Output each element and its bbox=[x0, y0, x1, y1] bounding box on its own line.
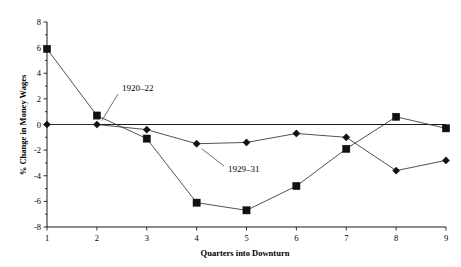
data-point-marker bbox=[343, 145, 350, 152]
x-axis: 123456789 bbox=[45, 227, 448, 243]
y-axis-title: % Change in Money Wages bbox=[18, 74, 28, 175]
data-point-marker bbox=[393, 167, 400, 174]
y-tick-label: -8 bbox=[34, 222, 41, 232]
data-point-marker bbox=[43, 121, 50, 128]
chart-container: 86420-2-4-6-8 123456789 1920–221929–31 %… bbox=[0, 0, 461, 267]
data-point-marker bbox=[93, 121, 100, 128]
data-point-marker bbox=[143, 126, 150, 133]
series-annotation-1929–31: 1929–31 bbox=[228, 164, 260, 174]
y-tick-label: 0 bbox=[37, 120, 41, 130]
wage-change-line-chart: 86420-2-4-6-8 123456789 1920–221929–31 %… bbox=[0, 0, 461, 267]
data-point-marker bbox=[442, 157, 449, 164]
y-tick-label: -4 bbox=[34, 171, 42, 181]
x-tick-label: 8 bbox=[394, 233, 398, 243]
x-tick-label: 5 bbox=[244, 233, 248, 243]
data-point-marker bbox=[143, 135, 150, 142]
y-tick-label: 4 bbox=[37, 68, 42, 78]
x-tick-label: 6 bbox=[294, 233, 298, 243]
data-point-marker bbox=[243, 139, 250, 146]
data-point-marker bbox=[442, 125, 449, 132]
data-point-marker bbox=[43, 45, 50, 52]
series-layer bbox=[43, 45, 449, 214]
x-axis-title: Quarters into Downturn bbox=[201, 248, 290, 258]
data-point-marker bbox=[293, 182, 300, 189]
x-tick-label: 4 bbox=[195, 233, 200, 243]
data-point-marker bbox=[243, 207, 250, 214]
data-point-marker bbox=[93, 112, 100, 119]
y-tick-label: 8 bbox=[37, 17, 41, 27]
data-point-marker bbox=[343, 134, 350, 141]
series-annotation-1920–22: 1920–22 bbox=[122, 83, 154, 93]
data-point-marker bbox=[393, 113, 400, 120]
x-tick-label: 2 bbox=[95, 233, 99, 243]
y-tick-label: 2 bbox=[37, 94, 41, 104]
data-point-marker bbox=[193, 140, 200, 147]
x-tick-label: 7 bbox=[344, 233, 348, 243]
x-tick-label: 9 bbox=[444, 233, 448, 243]
x-tick-label: 1 bbox=[45, 233, 49, 243]
y-tick-label: -6 bbox=[34, 196, 41, 206]
y-tick-label: -2 bbox=[34, 145, 41, 155]
data-point-marker bbox=[293, 130, 300, 137]
series-1920-22 bbox=[43, 45, 449, 214]
x-tick-label: 3 bbox=[145, 233, 149, 243]
data-point-marker bbox=[193, 199, 200, 206]
y-tick-label: 6 bbox=[37, 43, 41, 53]
